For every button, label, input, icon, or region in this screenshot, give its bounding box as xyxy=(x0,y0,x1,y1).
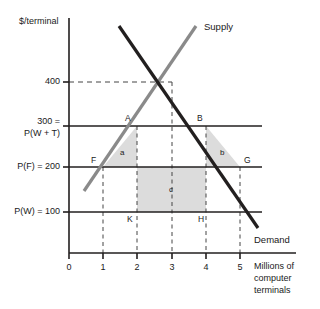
supply-label: Supply xyxy=(204,21,233,32)
x-axis-ticks xyxy=(69,253,240,259)
demand-label: Demand xyxy=(254,234,290,245)
y-axis-ticks xyxy=(63,82,69,212)
x-tick-label-4: 4 xyxy=(199,262,213,273)
point-label-H: H xyxy=(198,214,204,225)
x-tick-label-3: 3 xyxy=(165,262,179,273)
point-label-G: G xyxy=(244,155,251,166)
y-tick-label-400: 400 xyxy=(8,76,60,87)
x-tick-label-2: 2 xyxy=(130,262,144,273)
x-tick-label-1: 1 xyxy=(96,262,110,273)
point-label-A: A xyxy=(125,113,131,124)
point-label-K: K xyxy=(127,214,133,225)
x-tick-label-5: 5 xyxy=(233,262,247,273)
y-axis-title: $/terminal xyxy=(19,16,59,27)
point-label-F: F xyxy=(91,155,96,166)
x-tick-label-0: 0 xyxy=(62,262,76,273)
y-tick-label-200: P(F) = 200 xyxy=(0,161,60,172)
supply-demand-chart: $/terminal 400 300 = P(W + T) P(F) = 200… xyxy=(0,0,320,309)
x-axis-title-line-3: terminals xyxy=(254,285,291,296)
y-tick-label-300-sub: P(W + T) xyxy=(2,128,60,139)
x-axis-title-line-2: computer xyxy=(254,273,292,284)
y-tick-label-300: 300 = xyxy=(8,116,60,127)
region-label-c: c xyxy=(169,184,173,195)
x-axis-title-line-1: Millions of xyxy=(254,261,294,272)
region-label-a: a xyxy=(120,147,124,158)
y-tick-label-100: P(W) = 100 xyxy=(0,206,60,217)
region-label-b: b xyxy=(220,147,224,158)
point-label-B: B xyxy=(197,113,203,124)
